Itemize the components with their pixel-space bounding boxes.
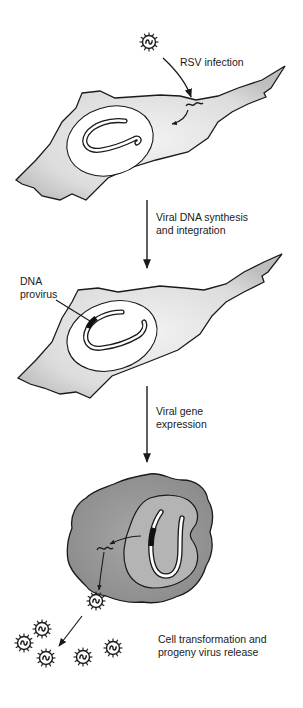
infecting-virus-icon — [140, 33, 159, 52]
label-viral-gene-expression: Viral gene expression — [156, 405, 207, 430]
label-cell-transformation: Cell transformation and progeny virus re… — [158, 633, 267, 658]
release-arrow — [59, 616, 82, 646]
label-rsv-infection: RSV infection — [180, 56, 244, 69]
progeny-viruses — [15, 620, 123, 668]
progeny-virus-icon — [15, 634, 34, 653]
diagram-canvas: RSV infection Viral DNA synthesis and in… — [0, 0, 303, 708]
progeny-virus-icon — [37, 649, 56, 668]
cell-2-provirus — [18, 254, 282, 398]
diagram-graphics — [0, 0, 303, 708]
expressed-provirus-segment — [151, 528, 154, 546]
progeny-virus-icon — [104, 639, 123, 658]
label-dna-provirus: DNA provirus — [20, 275, 57, 300]
progeny-virus-icon — [33, 620, 52, 639]
label-viral-dna-synthesis: Viral DNA synthesis and integration — [156, 211, 248, 236]
cell-3-transformed — [67, 474, 213, 603]
cell-1-infected — [16, 66, 285, 200]
progeny-virus-icon — [74, 648, 93, 667]
